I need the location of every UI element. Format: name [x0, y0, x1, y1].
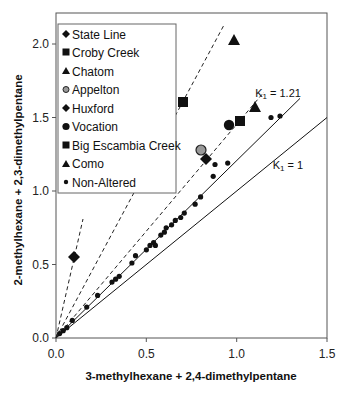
legend-item-appelton: Appelton: [63, 83, 119, 97]
x-tick-label: 1.0: [228, 347, 245, 361]
series-vocation: [224, 120, 234, 130]
y-tick-label: 2.0: [32, 37, 49, 51]
svg-text:Croby Creek: Croby Creek: [72, 46, 140, 60]
legend-item-state-line: State Line: [62, 28, 126, 42]
x-axis-label: 3-methylhexane + 2,4-dimethylpentane: [85, 370, 296, 382]
k121-annotation: K1 = 1.21: [255, 87, 301, 101]
series-como: [249, 101, 261, 112]
circle-marker: [224, 120, 234, 130]
legend: State Line Croby Creek Chatom Appelton H…: [58, 24, 182, 193]
x-tick-label: 0.5: [138, 347, 155, 361]
triangle-marker: [228, 34, 240, 45]
x-tick-label: 1.5: [319, 347, 336, 361]
svg-text:Big Escambia Creek: Big Escambia Creek: [72, 139, 182, 153]
square-icon: [63, 142, 70, 149]
legend-item-big-escambia-creek: Big Escambia Creek: [63, 139, 182, 153]
y-tick-label: 0.0: [32, 331, 49, 345]
square-marker: [178, 97, 188, 107]
y-axis-label: 2-methylhexane + 2,3-dimethylpentane: [12, 74, 24, 285]
svg-text:Como: Como: [72, 157, 104, 171]
svg-text:State Line: State Line: [72, 28, 126, 42]
dot-icon: [64, 180, 68, 184]
x-axis: 0.0 0.5 1.0 1.5: [48, 338, 336, 361]
triangle-marker: [249, 101, 261, 112]
series-appelton: [196, 145, 206, 155]
series-state-line: [68, 251, 80, 263]
legend-item-non-altered: Non-Altered: [64, 176, 136, 190]
series-big-escambia-creek: [235, 116, 245, 126]
svg-text:Non-Altered: Non-Altered: [72, 176, 136, 190]
square-icon: [63, 49, 70, 56]
series-croby-creek: [178, 97, 188, 107]
legend-item-croby-creek: Croby Creek: [63, 46, 141, 60]
k1-annotation: K1 = 1: [273, 159, 303, 173]
x-tick-label: 0.0: [48, 347, 65, 361]
y-tick-label: 1.5: [32, 111, 49, 125]
circle-marker: [196, 145, 206, 155]
y-tick-label: 1.0: [32, 184, 49, 198]
square-marker: [235, 116, 245, 126]
circle-icon: [62, 123, 69, 130]
diamond-marker: [68, 251, 80, 263]
y-tick-label: 0.5: [32, 258, 49, 272]
svg-text:Chatom: Chatom: [72, 65, 114, 79]
svg-text:Appelton: Appelton: [72, 83, 119, 97]
dashed-line-statline: [56, 219, 83, 338]
svg-text:Huxford: Huxford: [72, 102, 114, 116]
scatter-chart: 0.0 0.5 1.0 1.5 2.0 0.0 0.5 1.0 1.5 3-me…: [0, 0, 349, 397]
y-axis: 0.0 0.5 1.0 1.5 2.0: [32, 37, 56, 345]
series-chatom: [228, 34, 240, 45]
circle-icon: [63, 87, 69, 93]
svg-text:Vocation: Vocation: [72, 120, 118, 134]
